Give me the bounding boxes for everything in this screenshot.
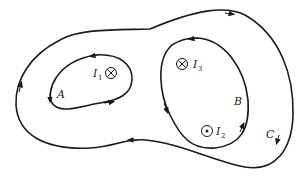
loop-a-label: A — [56, 88, 65, 101]
loop-c-label: C — [266, 128, 275, 141]
loop-c-arrow-top — [225, 13, 232, 14]
loop-b-arrow-right — [240, 125, 243, 132]
out-of-page-icon — [206, 130, 209, 133]
into-page-icon — [179, 61, 186, 68]
current-i1: I 1 — [92, 67, 117, 82]
current-i2: I 2 — [202, 125, 226, 140]
current-i3-subscript: 3 — [198, 65, 202, 73]
loop-b-label: B — [233, 95, 242, 108]
loop-c-arrow-right — [277, 135, 279, 142]
into-page-icon — [108, 70, 115, 77]
current-i3: I 3 — [177, 58, 203, 73]
ampere-loops-diagram: I 1 I 3 I 2 A B C — [0, 0, 307, 179]
current-i2-subscript: 2 — [221, 132, 225, 140]
loop-b — [161, 38, 248, 148]
current-i1-subscript: 1 — [98, 74, 102, 82]
